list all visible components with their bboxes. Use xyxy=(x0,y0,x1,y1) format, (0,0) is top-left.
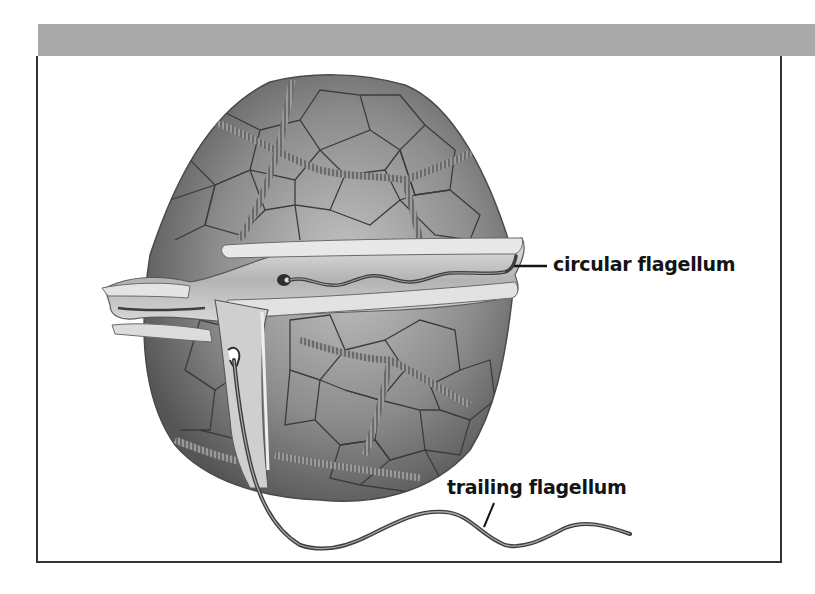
dinoflagellate-illustration xyxy=(0,0,815,594)
label-circular-flagellum: circular flagellum xyxy=(553,253,735,275)
leader-line-trailing xyxy=(484,503,494,527)
label-trailing-flagellum: trailing flagellum xyxy=(447,476,627,498)
